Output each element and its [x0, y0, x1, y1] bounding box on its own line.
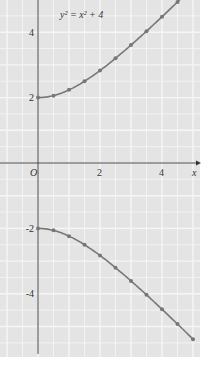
- data-point: [176, 322, 180, 326]
- y-tick-label: 4: [29, 27, 34, 38]
- data-point: [145, 293, 149, 297]
- data-point: [191, 337, 195, 341]
- data-point: [98, 254, 102, 258]
- x-tick-label: 2: [97, 167, 102, 178]
- data-point: [160, 15, 164, 19]
- y-tick-label: -4: [26, 288, 34, 299]
- x-axis-label: x: [191, 167, 197, 178]
- x-tick-label: O: [30, 167, 37, 178]
- y-tick-label: 2: [29, 92, 34, 103]
- data-point: [114, 266, 118, 270]
- data-point: [129, 279, 133, 283]
- data-point: [36, 96, 40, 100]
- data-point: [129, 43, 133, 47]
- y-tick-label: -2: [26, 223, 34, 234]
- data-point: [145, 29, 149, 33]
- data-point: [114, 56, 118, 60]
- data-point: [83, 243, 87, 247]
- equation-label: y² = x² + 4: [59, 9, 103, 20]
- data-point: [52, 94, 56, 98]
- data-point: [52, 228, 56, 232]
- data-point: [67, 234, 71, 238]
- data-point: [36, 226, 40, 230]
- hyperbola-plot: O2442-2-4 y² = x² + 4 x: [0, 0, 206, 383]
- data-point: [98, 68, 102, 72]
- x-tick-label: 4: [159, 167, 164, 178]
- data-point: [67, 88, 71, 92]
- data-point: [83, 79, 87, 83]
- data-point: [160, 307, 164, 311]
- data-point: [176, 0, 180, 4]
